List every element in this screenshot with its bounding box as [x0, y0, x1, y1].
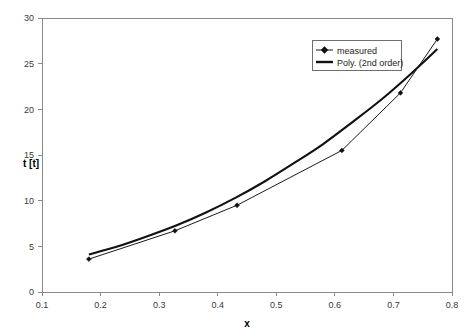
y-axis-tick-labels: 051015202530 [24, 13, 34, 297]
x-tick-label: 0.1 [36, 300, 49, 310]
y-tick-label: 20 [24, 105, 34, 115]
x-tick-label: 0.4 [211, 300, 224, 310]
y-tick-label: 5 [29, 242, 34, 252]
y-tick-label: 25 [24, 59, 34, 69]
x-tick-label: 0.7 [387, 300, 400, 310]
chart-container: 051015202530 0.10.20.30.40.50.60.70.8 t … [0, 0, 467, 335]
chart-canvas: 051015202530 0.10.20.30.40.50.60.70.8 t … [0, 0, 467, 335]
y-tick-label: 30 [24, 13, 34, 23]
x-tick-label: 0.2 [94, 300, 107, 310]
legend-label-measured: measured [337, 46, 377, 56]
x-tick-label: 0.5 [270, 300, 283, 310]
y-axis-ticks [38, 18, 42, 292]
y-tick-label: 0 [29, 287, 34, 297]
y-tick-label: 10 [24, 196, 34, 206]
x-tick-label: 0.3 [153, 300, 166, 310]
x-tick-label: 0.6 [329, 300, 342, 310]
x-axis-ticks [42, 292, 452, 296]
x-tick-label: 0.8 [446, 300, 459, 310]
chart-legend: measured Poly. (2nd order) [312, 40, 403, 70]
x-axis-title: x [244, 318, 250, 329]
y-axis-title: t [t] [23, 158, 39, 169]
x-axis-tick-labels: 0.10.20.30.40.50.60.70.8 [36, 300, 459, 310]
legend-label-poly: Poly. (2nd order) [337, 58, 403, 68]
